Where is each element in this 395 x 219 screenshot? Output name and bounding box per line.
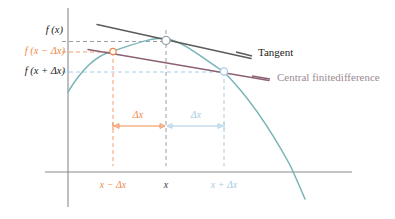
point-marker-fx-plus-dx [220,68,227,75]
legend-label-tangent: Tangent [258,47,293,58]
x-tick-label-x: x [152,180,180,190]
delta-x-right-arrow [167,123,224,130]
point-marker-fx [162,36,170,44]
x-tick-label-x-plus-dx: x + Δx [200,180,248,190]
annotation-delta-x-right: Δx [181,110,211,120]
y-tick-label-fx-minus-dx: f (x − Δx) [25,46,65,57]
x-tick-label-x-minus-dx: x − Δx [89,180,137,190]
y-tick-label-fx-plus-dx: f (x + Δx) [25,66,65,77]
y-tick-label-fx: f (x) [46,25,63,36]
figure-canvas: f (x) f (x − Δx) f (x + Δx) x − Δx x x +… [0,0,395,219]
delta-x-left-arrow [113,123,165,130]
point-marker-fx-minus-dx [110,48,116,54]
annotation-delta-x-left: Δx [123,110,153,120]
legend-label-central-finite-difference: Central finitedifference [277,72,380,83]
